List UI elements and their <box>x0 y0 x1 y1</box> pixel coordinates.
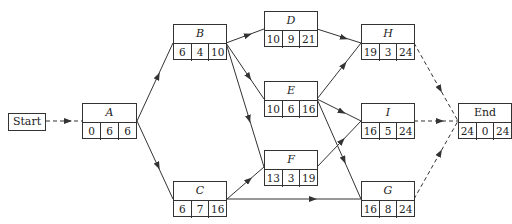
edge-d-h <box>317 29 361 43</box>
node-c-earliest-finish: 16 <box>208 201 226 218</box>
node-f: F 13 3 19 <box>264 150 318 186</box>
start-label: Start <box>13 115 41 128</box>
edges-layer <box>0 0 512 224</box>
node-f-earliest-start: 13 <box>265 170 282 187</box>
start-node: Start <box>8 113 46 131</box>
node-h-duration: 3 <box>379 44 397 61</box>
node-end-earliest-start: 24 <box>459 123 476 140</box>
edge-e-i <box>317 99 361 121</box>
node-d-label: D <box>265 12 317 31</box>
edge-a-b <box>137 43 173 121</box>
node-d-duration: 9 <box>282 31 300 48</box>
node-b: B 6 4 10 <box>173 24 227 60</box>
edge-f-i <box>317 121 361 167</box>
node-a-label: A <box>83 104 136 123</box>
node-d-earliest-start: 10 <box>265 31 282 48</box>
node-a-earliest-finish: 6 <box>118 123 136 140</box>
node-g-earliest-start: 16 <box>362 201 379 218</box>
node-h-earliest-finish: 24 <box>396 44 414 61</box>
node-i-label: I <box>362 104 414 123</box>
node-end-label: End <box>459 104 511 123</box>
node-a-earliest-start: 0 <box>83 123 100 140</box>
node-h: H 19 3 24 <box>361 24 415 60</box>
node-b-duration: 4 <box>191 44 209 61</box>
node-e-earliest-finish: 16 <box>299 101 317 118</box>
node-a-duration: 6 <box>100 123 118 140</box>
node-b-earliest-start: 6 <box>174 44 191 61</box>
node-end: End 24 0 24 <box>458 103 512 139</box>
node-h-earliest-start: 19 <box>362 44 379 61</box>
edge-g-end <box>414 121 458 199</box>
node-c-label: C <box>174 182 226 201</box>
node-i-earliest-start: 16 <box>362 123 379 140</box>
node-g: G 16 8 24 <box>361 181 415 217</box>
node-d: D 10 9 21 <box>264 11 318 47</box>
edge-b-d <box>226 29 264 43</box>
node-e: E 10 6 16 <box>264 81 318 117</box>
node-e-duration: 6 <box>282 101 300 118</box>
node-f-duration: 3 <box>282 170 300 187</box>
node-f-earliest-finish: 19 <box>299 170 317 187</box>
node-h-label: H <box>362 25 414 44</box>
edge-c-f <box>227 167 264 199</box>
node-b-label: B <box>174 25 226 44</box>
edge-a-c <box>137 121 173 199</box>
edge-h-end <box>414 43 458 121</box>
node-end-earliest-finish: 24 <box>493 123 511 140</box>
edge-b-f <box>226 43 264 167</box>
node-end-duration: 0 <box>476 123 494 140</box>
node-e-label: E <box>265 82 317 101</box>
node-c-duration: 7 <box>191 201 209 218</box>
node-i-duration: 5 <box>379 123 397 140</box>
node-a: A 0 6 6 <box>82 103 137 139</box>
node-g-label: G <box>362 182 414 201</box>
node-c: C 6 7 16 <box>173 181 227 217</box>
node-f-label: F <box>265 151 317 170</box>
node-c-earliest-start: 6 <box>174 201 191 218</box>
node-g-duration: 8 <box>379 201 397 218</box>
edge-e-h <box>317 43 361 99</box>
node-d-earliest-finish: 21 <box>299 31 317 48</box>
node-i: I 16 5 24 <box>361 103 415 139</box>
node-g-earliest-finish: 24 <box>396 201 414 218</box>
node-b-earliest-finish: 10 <box>208 44 226 61</box>
node-e-earliest-start: 10 <box>265 101 282 118</box>
edge-e-g <box>317 99 361 199</box>
node-i-earliest-finish: 24 <box>396 123 414 140</box>
edge-b-e <box>226 43 264 99</box>
